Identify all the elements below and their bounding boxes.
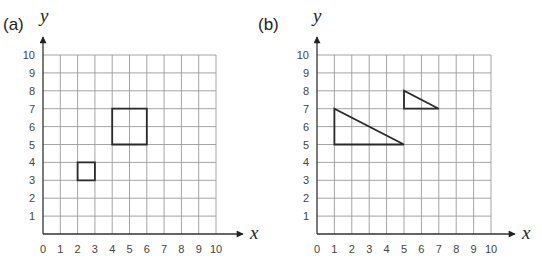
y-tick-label: 2 bbox=[29, 192, 35, 204]
y-tick-label: 6 bbox=[303, 121, 309, 133]
x-tick-label: 6 bbox=[144, 243, 150, 255]
y-tick-label: 1 bbox=[303, 210, 309, 222]
x-tick-label: 7 bbox=[161, 243, 167, 255]
y-tick-label: 5 bbox=[303, 139, 309, 151]
x-tick-label: 0 bbox=[314, 243, 320, 255]
x-tick-label: 10 bbox=[210, 243, 222, 255]
x-tick-label: 10 bbox=[485, 243, 497, 255]
x-tick-label: 9 bbox=[471, 243, 477, 255]
x-tick-label: 9 bbox=[196, 243, 202, 255]
y-tick-label: 6 bbox=[29, 121, 35, 133]
panel-label: (b) bbox=[258, 15, 279, 34]
x-tick-label: 1 bbox=[57, 243, 63, 255]
y-tick-label: 8 bbox=[303, 85, 309, 97]
y-axis-label: y bbox=[311, 5, 322, 26]
x-axis-label: x bbox=[521, 222, 531, 243]
y-tick-label: 4 bbox=[303, 156, 309, 168]
x-tick-label: 8 bbox=[178, 243, 184, 255]
x-tick-label: 5 bbox=[401, 243, 407, 255]
y-tick-label: 4 bbox=[29, 156, 35, 168]
x-tick-label: 1 bbox=[331, 243, 337, 255]
y-tick-label: 2 bbox=[303, 192, 309, 204]
panel-b: (b)yx01234567891012345678910 bbox=[258, 5, 531, 255]
y-tick-label: 9 bbox=[29, 67, 35, 79]
y-tick-label: 10 bbox=[297, 49, 309, 61]
small-square bbox=[78, 162, 95, 180]
y-axis-label: y bbox=[38, 5, 49, 26]
y-tick-label: 7 bbox=[303, 103, 309, 115]
x-tick-label: 2 bbox=[349, 243, 355, 255]
x-tick-label: 3 bbox=[92, 243, 98, 255]
y-tick-label: 7 bbox=[29, 103, 35, 115]
x-tick-label: 7 bbox=[436, 243, 442, 255]
x-tick-label: 6 bbox=[418, 243, 424, 255]
x-tick-label: 3 bbox=[366, 243, 372, 255]
x-tick-label: 4 bbox=[384, 243, 390, 255]
x-tick-label: 2 bbox=[75, 243, 81, 255]
x-axis-label: x bbox=[249, 222, 259, 243]
y-tick-label: 9 bbox=[303, 67, 309, 79]
y-tick-label: 3 bbox=[29, 174, 35, 186]
y-tick-label: 8 bbox=[29, 85, 35, 97]
x-tick-label: 8 bbox=[453, 243, 459, 255]
y-tick-label: 1 bbox=[29, 210, 35, 222]
y-tick-label: 3 bbox=[303, 174, 309, 186]
y-tick-label: 5 bbox=[29, 139, 35, 151]
x-tick-label: 0 bbox=[40, 243, 46, 255]
panel-a: (a)yx01234567891012345678910 bbox=[3, 5, 259, 255]
x-tick-label: 4 bbox=[109, 243, 115, 255]
panel-label: (a) bbox=[3, 15, 24, 34]
y-tick-label: 10 bbox=[23, 49, 35, 61]
x-tick-label: 5 bbox=[126, 243, 132, 255]
coordinate-grid-figure: (a)yx01234567891012345678910 (b)yx012345… bbox=[0, 0, 542, 262]
